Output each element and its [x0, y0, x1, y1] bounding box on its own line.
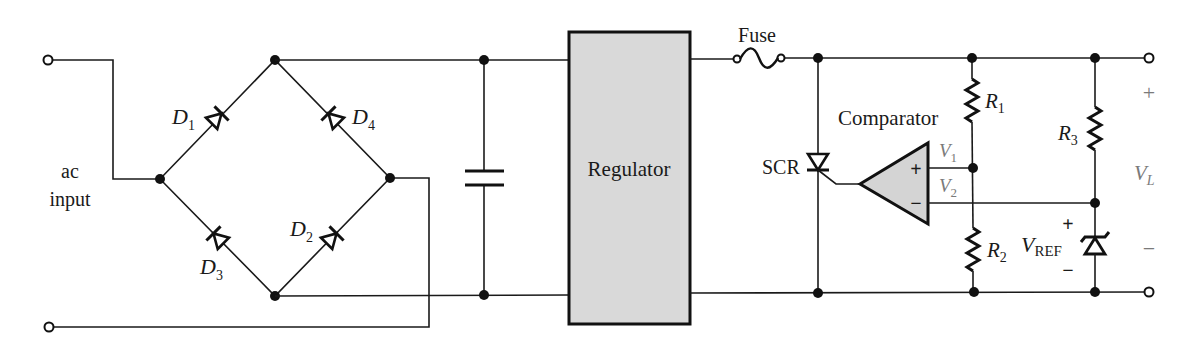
v2-label: V2: [939, 175, 957, 200]
vref-minus: −: [1062, 259, 1073, 281]
vl-label: VL: [1134, 161, 1155, 188]
ac-input-terminal-bottom: [45, 323, 54, 332]
zener-diode-icon: [1081, 232, 1109, 292]
diode-d4-icon: [321, 106, 345, 130]
comparator-icon: [860, 143, 1095, 224]
regulator-label: Regulator: [588, 157, 671, 181]
vref-plus: +: [1062, 213, 1073, 235]
filter-capacitor-icon: [465, 55, 504, 300]
d3-label: D3: [199, 254, 223, 283]
output-plus: +: [1143, 80, 1155, 105]
v1-label: V1: [939, 140, 957, 165]
comparator-minus: −: [910, 192, 921, 214]
crowbar-circuit-diagram: ac input D1 D4 D2 D3: [0, 0, 1196, 342]
r3-label: R3: [1057, 121, 1078, 148]
diode-d1-icon: [205, 106, 229, 130]
comparator-label: Comparator: [838, 106, 938, 130]
d1-label: D1: [171, 104, 195, 133]
fuse-label: Fuse: [738, 24, 776, 46]
ac-input-label-line1: ac: [61, 160, 79, 182]
vref-label: VREF: [1021, 232, 1062, 259]
ac-input-wiring: [44, 56, 430, 332]
bridge-rectifier: [155, 55, 395, 301]
ac-input-terminal-top: [44, 56, 53, 65]
output-terminal-negative: [1145, 288, 1154, 297]
d2-label: D2: [289, 216, 313, 245]
output-terminal-positive: [1145, 54, 1154, 63]
resistor-r2-icon: [967, 228, 979, 292]
scr-label: SCR: [762, 156, 800, 178]
comparator-plus: +: [910, 158, 921, 180]
scr-icon: [807, 53, 860, 298]
r1-label: R1: [984, 89, 1005, 116]
resistor-r3-icon: [1089, 58, 1101, 237]
ac-input-label-line2: input: [49, 188, 91, 211]
r2-label: R2: [986, 238, 1007, 265]
output-minus: −: [1143, 236, 1155, 261]
d4-label: D4: [351, 104, 375, 133]
fuse-icon: [734, 48, 785, 67]
